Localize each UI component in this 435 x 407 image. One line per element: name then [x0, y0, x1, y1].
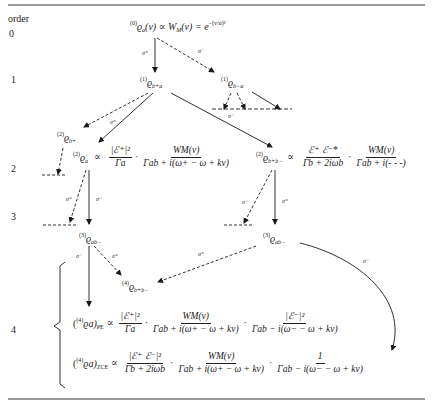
sigma-label-3-right-dashed: σ⁺ — [198, 251, 204, 257]
dot-operator: · — [348, 152, 351, 162]
edge-1l-to-bb — [171, 93, 272, 147]
lhs-pe: ((4)ϱa)PE — [73, 317, 104, 330]
fraction-3: 1Γab − i(ω− − ω + kv) — [275, 352, 365, 374]
fraction-1: |ℰ⁺ ℰ⁻|²Γb + 2iωb — [123, 352, 167, 374]
equals-exp-text: (v) = e — [181, 21, 208, 32]
order-superscript: (2) — [57, 131, 64, 137]
equation-order2-rho-bb: (2)ϱb+b− ∝ ℰ⁺ ℰ⁻*Γb + 2iωb · WM(v)Γab + … — [256, 146, 410, 168]
order-superscript: (2) — [256, 151, 263, 157]
order-3-label: 3 — [11, 212, 16, 222]
denominator: Γa — [113, 158, 127, 169]
node-order3-rho-ab-left: (3)ϱab− — [79, 232, 101, 245]
node-subscript: ab− — [91, 239, 101, 245]
denominator: Γab − i(ω− − ω + kv) — [250, 324, 340, 335]
denominator: Γb + 2iωb — [123, 364, 167, 375]
equation-order4-zce: ((4)ϱa)ZCE ∝ |ℰ⁺ ℰ⁻|²Γb + 2iωb · WM(v)Γa… — [73, 352, 367, 374]
rho-a: ϱa) — [83, 358, 96, 369]
proportional-symbol: ∝ — [287, 152, 294, 162]
equation-order2-rho-a: (2)ϱa ∝ |ℰ⁺|²Γa · WM(v)Γab + i(ω+ − ω + … — [73, 146, 233, 168]
node-order0-rho-a: (0)ϱa(v) ∝ WM(v) = e−(v/u)² — [130, 20, 225, 33]
dot-operator: · — [269, 358, 272, 368]
dot-operator: · — [244, 318, 247, 328]
fraction-2: WM(v)Γab + i(- - -) — [354, 146, 407, 168]
node-order1-rho-bminus-a: (1)ϱb−a — [221, 76, 243, 89]
node-subscript: a — [85, 158, 88, 164]
node-subscript: b+ — [69, 138, 76, 144]
order-superscript: (4) — [122, 280, 129, 286]
denominator: Γb + 2iωb — [301, 158, 345, 169]
sigma-label-2-right-solid: σ⁺ — [282, 198, 288, 204]
sigma-label-1-right-bottom: σ⁻ — [228, 113, 234, 119]
order-superscript: (1) — [221, 76, 228, 82]
order-0-label: 0 — [9, 29, 14, 39]
zce-subscript: ZCE — [97, 364, 108, 370]
order-superscript: (1) — [140, 76, 147, 82]
numerator: |ℰ⁺|² — [109, 146, 132, 158]
sigma-label-3-right-curve: σ⁻ — [363, 258, 369, 264]
order-superscript: (3) — [263, 232, 270, 238]
numerator: WM(v) — [181, 312, 211, 324]
pe-subscript: PE — [97, 324, 104, 330]
node-order2-rho-a: (2)ϱa — [73, 151, 88, 164]
node-subscript: ab− — [275, 239, 285, 245]
edge-2a-dashed — [70, 170, 86, 222]
denominator: Γab + i(ω+ − ω + kv) — [151, 324, 241, 335]
sigma-label-0-right: σ⁻ — [198, 48, 204, 54]
node-order3-rho-ab-right: (3)ϱab− — [263, 232, 285, 245]
order-1-label: 1 — [11, 75, 16, 85]
order4-brace — [54, 262, 65, 388]
order-column-header: order — [8, 14, 29, 24]
numerator: ℰ⁺ ℰ⁻* — [306, 146, 339, 158]
edge-2bplus-down — [58, 148, 63, 174]
sigma-label-1-left: σ⁺ — [110, 119, 116, 125]
numerator: WM(v) — [206, 352, 236, 364]
fraction-1: |ℰ⁺|²Γa — [119, 312, 142, 334]
fraction-3: |ℰ⁻|²Γab − i(ω− − ω + kv) — [250, 312, 340, 334]
numerator: 1 — [316, 352, 325, 364]
node-order4-rho-bplus-bminus: (4)ϱb+b− — [122, 280, 148, 293]
sigma-label-0-left: σ⁺ — [142, 50, 148, 56]
diagram-edges — [0, 0, 435, 407]
order-4-label: 4 — [11, 325, 16, 335]
node-subscript: b+a — [152, 83, 162, 89]
edge-1r-c — [252, 92, 280, 109]
sigma-label-3-left-solid: σ⁻ — [76, 253, 82, 259]
numerator: WM(v) — [171, 146, 201, 158]
numerator: |ℰ⁺|² — [119, 312, 142, 324]
equation-order4-pe: ((4)ϱa)PE ∝ |ℰ⁺|²Γa · WM(v)Γab + i(ω+ − … — [73, 312, 342, 334]
node-subscript: b+b− — [268, 158, 282, 164]
edge-3l-dashed — [94, 246, 121, 275]
dot-operator: · — [135, 152, 138, 162]
edge-1l-to-a — [99, 93, 153, 142]
denominator: Γab + i(ω+ − ω + kv) — [141, 158, 231, 169]
sigma-label-2-left-solid: σ⁻ — [96, 196, 102, 202]
order-superscript: (3) — [79, 232, 86, 238]
order-superscript: (2) — [73, 151, 80, 157]
lhs-zce: ((4)ϱa)ZCE — [73, 357, 108, 370]
proportional-symbol: ∝ — [94, 152, 101, 162]
node-order2-rho-bplus-bminus: (2)ϱb+b− — [256, 151, 282, 164]
node-subscript: b−a — [233, 83, 243, 89]
proportional-to-text: (v) ∝ W — [145, 21, 176, 32]
exponent: −(v/u)² — [209, 20, 226, 26]
fraction-2: WM(v)Γab + i(ω+ − ω + kv) — [141, 146, 231, 168]
denominator: Γa — [123, 324, 137, 335]
fraction-1: |ℰ⁺|²Γa — [109, 146, 132, 168]
dot-operator: · — [170, 358, 173, 368]
denominator: Γab − i(ω− − ω + kv) — [275, 364, 365, 375]
edge-3r-dashed — [158, 246, 256, 282]
denominator: Γab + i(ω+ − ω + kv) — [176, 364, 266, 375]
numerator: |ℰ⁺ ℰ⁻|² — [127, 352, 163, 364]
node-order2-rho-bplus: (2)ϱb+ — [57, 131, 76, 144]
edge-2bb-dashed — [244, 170, 272, 223]
sigma-label-3-left-dashed: σ⁺ — [112, 253, 118, 259]
dot-operator: · — [145, 318, 148, 328]
sigma-label-2-left-dashed: σ⁺ — [66, 196, 72, 202]
denominator: Γab + i(- - -) — [354, 158, 407, 169]
numerator: WM(v) — [366, 146, 396, 158]
edge-1r-a — [224, 93, 231, 109]
fraction-2: WM(v)Γab + i(ω+ − ω + kv) — [151, 312, 241, 334]
node-order1-rho-bplus-a: (1)ϱb+a — [140, 76, 162, 89]
order-superscript: (0) — [130, 20, 137, 26]
node-subscript: b+b− — [134, 287, 148, 293]
